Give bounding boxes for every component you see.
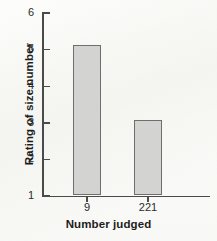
x-axis-title: Number judged bbox=[0, 218, 217, 230]
y-axis-line bbox=[42, 12, 44, 197]
plot-area: 6 5 4 3 2 1 9 221 Number judged Rating o… bbox=[0, 0, 217, 241]
x-axis-line bbox=[42, 196, 210, 198]
y-tick-4 bbox=[44, 86, 50, 87]
y-axis-title: Rating of size number bbox=[23, 14, 35, 194]
y-tick-6 bbox=[44, 12, 50, 13]
y-tick-3 bbox=[44, 122, 50, 123]
y-tick-2 bbox=[44, 159, 50, 160]
y-tick-5 bbox=[44, 49, 50, 50]
y-tick-1 bbox=[44, 195, 50, 196]
bar-9 bbox=[73, 45, 101, 195]
x-tick-label-9: 9 bbox=[65, 202, 109, 213]
bar-221 bbox=[134, 120, 162, 195]
chart-figure: 6 5 4 3 2 1 9 221 Number judged Rating o… bbox=[0, 0, 217, 241]
x-tick-label-221: 221 bbox=[126, 202, 170, 213]
